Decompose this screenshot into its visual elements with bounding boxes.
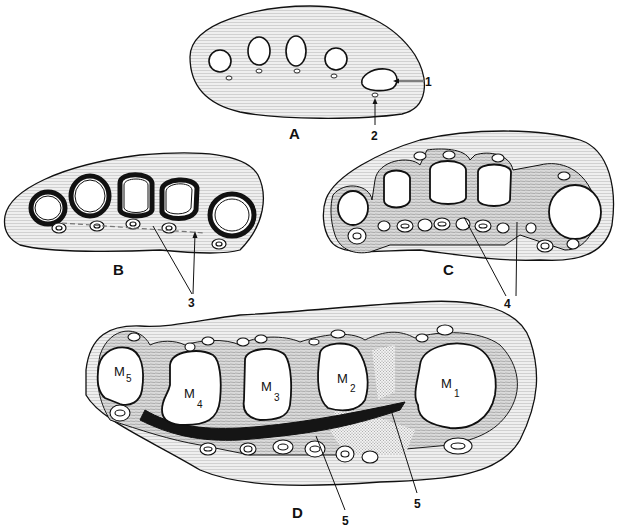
tendon-a5	[372, 93, 378, 97]
bone-label-m2: M	[337, 371, 348, 386]
bone-label-m3: M	[261, 379, 272, 394]
panel-b-label: B	[113, 261, 124, 278]
callout-5b-label: 5	[414, 497, 421, 511]
tendon-a4	[331, 74, 337, 78]
bone-a3	[286, 36, 306, 66]
panel-b: 3 B	[4, 153, 263, 310]
bone-label-m1: M	[441, 376, 452, 391]
panel-c: 4 C	[323, 131, 613, 311]
bone-sub-m3: 3	[274, 392, 280, 403]
bone-a4	[325, 48, 347, 70]
bone-sub-m2: 2	[350, 383, 356, 394]
callout-4-label: 4	[504, 297, 511, 311]
callout-2-label: 2	[371, 129, 378, 143]
tendon-a1	[226, 76, 232, 80]
callout-3-label: 3	[188, 296, 195, 310]
callout-5a-label: 5	[342, 514, 349, 528]
bone-a1	[209, 50, 231, 72]
tendon-a3	[294, 69, 300, 73]
panel-a-label: A	[289, 125, 300, 142]
panel-d: M 5 M 4 M 3 M 2 M 1 5 5 D	[86, 301, 537, 528]
bone-sub-m4: 4	[197, 399, 203, 410]
bone-sub-m1: 1	[454, 388, 460, 399]
callout-1-label: 1	[425, 75, 432, 89]
tendon-a2	[256, 69, 262, 73]
figure-canvas: 1 2 A 3 B	[0, 0, 619, 530]
bone-label-m4: M	[184, 386, 195, 401]
bone-a2	[248, 37, 270, 65]
bone-sub-m5: 5	[126, 373, 132, 384]
bone-label-m5: M	[114, 364, 125, 379]
panel-c-label: C	[443, 261, 454, 278]
panel-a: 1 2 A	[190, 6, 432, 143]
panel-d-label: D	[292, 504, 303, 521]
